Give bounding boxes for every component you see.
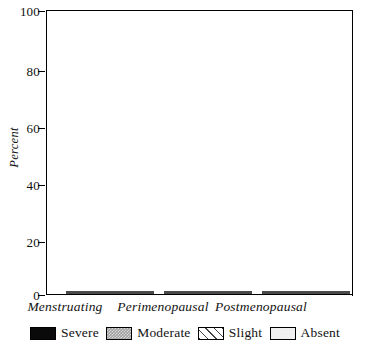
chart-legend: Severe Moderate Slight Absent [30, 323, 340, 343]
stacked-bar-perimenopausal [164, 291, 252, 294]
chart-figure: Percent 100 80 60 40 20 0 [0, 0, 366, 358]
bar-segment-moderate [67, 293, 153, 294]
y-tick-mark-40 [38, 185, 45, 186]
y-tick-mark-0 [38, 295, 45, 296]
legend-swatch-severe-icon [30, 327, 56, 340]
legend-label-severe: Severe [61, 325, 99, 341]
legend-swatch-absent-icon [270, 327, 296, 340]
stacked-bar-postmenopausal [262, 291, 350, 294]
y-tick-label-40: 40 [0, 179, 40, 192]
stacked-bar-menstruating [66, 291, 154, 294]
legend-item-absent: Absent [270, 325, 340, 341]
y-tick-mark-20 [38, 242, 45, 243]
legend-swatch-slight-icon [198, 327, 224, 340]
legend-label-absent: Absent [301, 325, 340, 341]
cropped-caption-artifact [28, 348, 328, 357]
y-tick-mark-60 [38, 128, 45, 129]
y-tick-label-100: 100 [0, 5, 40, 18]
bar-segment-moderate [165, 293, 251, 294]
y-tick-label-60: 60 [0, 122, 40, 135]
legend-label-moderate: Moderate [137, 325, 190, 341]
bar-segment-moderate [263, 293, 349, 294]
y-tick-label-80: 80 [0, 65, 40, 78]
y-tick-mark-80 [38, 71, 45, 72]
legend-label-slight: Slight [229, 325, 262, 341]
y-tick-mark-100 [38, 11, 45, 12]
legend-swatch-moderate-icon [106, 327, 132, 340]
legend-item-severe: Severe [30, 325, 99, 341]
legend-item-slight: Slight [198, 325, 262, 341]
legend-item-moderate: Moderate [106, 325, 190, 341]
y-tick-label-20: 20 [0, 236, 40, 249]
x-category-label-postmenopausal: Postmenopausal [196, 299, 326, 315]
plot-area [46, 11, 352, 295]
